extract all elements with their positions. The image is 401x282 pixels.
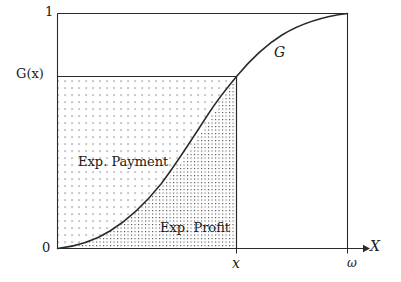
x-axis-x-label: x — [232, 256, 240, 270]
region-label-expected-profit: Exp. Profit — [160, 221, 230, 234]
y-axis-top-label: 1 — [45, 5, 53, 18]
region-label-expected-payment: Exp. Payment — [78, 155, 168, 168]
curve-label-g: G — [274, 45, 285, 59]
x-axis-omega-label: ω — [347, 257, 357, 269]
y-axis-gx-label: G(x) — [16, 67, 44, 80]
cdf-figure: 1 G(x) 0 x ω X G Exp. Payment Exp. Profi… — [0, 0, 401, 282]
y-axis-origin-label: 0 — [42, 241, 50, 254]
figure-canvas — [0, 0, 401, 282]
x-axis-name-label: X — [370, 239, 380, 253]
